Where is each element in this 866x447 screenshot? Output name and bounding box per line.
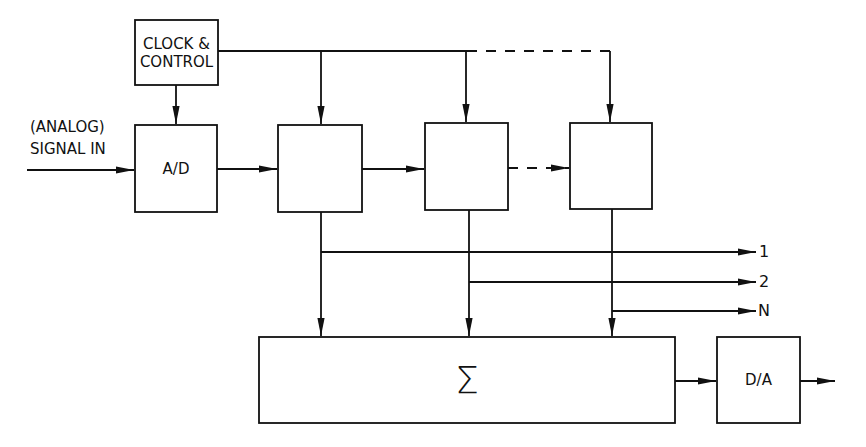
summer-label: Σ [259, 337, 675, 423]
tap-output-2: 2 [759, 273, 769, 291]
adc-label: A/D [135, 125, 217, 212]
tap-output-n: N [758, 302, 770, 320]
delay-label-1 [278, 120, 362, 207]
input-label: (ANALOG)SIGNAL IN [30, 118, 106, 158]
clock-control-label: CLOCK &CONTROL [135, 20, 218, 85]
delay-label-2 [425, 118, 508, 205]
dac-label: D/A [717, 337, 800, 423]
delay-label-n [570, 118, 652, 204]
tap-output-1: 1 [759, 243, 769, 261]
